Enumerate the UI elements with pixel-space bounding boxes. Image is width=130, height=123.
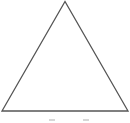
triangle-diagram — [0, 0, 130, 123]
triangle-shape — [2, 2, 128, 112]
cropped-caption-fragment — [83, 119, 89, 121]
cropped-caption-fragment — [49, 119, 55, 121]
